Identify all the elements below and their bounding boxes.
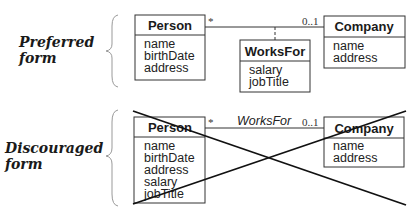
class-name: Person [148, 120, 192, 135]
class-name: Company [334, 121, 394, 136]
discouraged-person-class: Person name birthDate address salary job… [134, 117, 205, 203]
class-name: WorksFor [245, 44, 305, 59]
discouraged-form-section: Discouraged form * WorksFor 0..1 Person … [4, 110, 406, 206]
preferred-label-line2: form [18, 50, 57, 66]
discouraged-label-line2: form [4, 156, 43, 172]
attribute: address [144, 61, 188, 75]
preferred-multiplicity-company: 0..1 [302, 15, 319, 27]
class-name: Person [148, 18, 192, 33]
works-for-association-class: WorksFor salary jobTitle [240, 40, 310, 92]
association-name: WorksFor [237, 114, 292, 128]
discouraged-multiplicity-person: * [208, 116, 214, 128]
preferred-form-section: Preferred form * 0..1 Person name birthD… [18, 15, 405, 92]
preferred-brace [106, 15, 118, 87]
class-name: Company [334, 19, 394, 34]
attribute: address [333, 51, 377, 65]
uml-diagram: Preferred form * 0..1 Person name birthD… [0, 0, 418, 214]
preferred-label-line1: Preferred [18, 34, 94, 50]
preferred-multiplicity-person: * [208, 15, 214, 27]
attribute: address [333, 151, 377, 165]
discouraged-label-line1: Discouraged [4, 140, 104, 156]
preferred-company-class: Company name address [324, 16, 405, 68]
discouraged-brace [106, 110, 118, 206]
attribute: jobTitle [248, 75, 289, 89]
preferred-person-class: Person name birthDate address [135, 15, 205, 80]
discouraged-multiplicity-company: 0..1 [302, 116, 319, 128]
